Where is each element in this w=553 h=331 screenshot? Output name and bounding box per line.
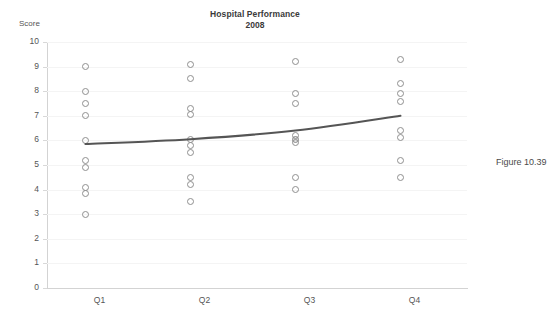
data-point — [82, 190, 89, 197]
y-tick-mark — [43, 288, 47, 289]
data-point — [292, 174, 299, 181]
data-point — [397, 56, 404, 63]
x-tick-label-q4: Q4 — [395, 295, 435, 305]
x-tick-label-q2: Q2 — [185, 295, 225, 305]
data-point — [82, 211, 89, 218]
data-point — [292, 90, 299, 97]
chart-subtitle: 2008 — [160, 20, 350, 31]
y-tick-label: 4 — [17, 185, 39, 194]
y-tick-label: 2 — [17, 234, 39, 243]
data-point — [82, 100, 89, 107]
data-point — [187, 75, 194, 82]
x-tick-label-q1: Q1 — [80, 295, 120, 305]
data-point — [397, 157, 404, 164]
y-tick-label: 10 — [17, 37, 39, 46]
chart-title: Hospital Performance — [160, 9, 350, 20]
data-point — [82, 63, 89, 70]
data-point — [397, 90, 404, 97]
x-tick-label-q3: Q3 — [290, 295, 330, 305]
data-point — [292, 139, 299, 146]
data-point — [187, 174, 194, 181]
y-tick-label: 0 — [17, 283, 39, 292]
y-tick-label: 9 — [17, 62, 39, 71]
y-tick-label: 1 — [17, 258, 39, 267]
y-tick-label: 5 — [17, 160, 39, 169]
data-point — [187, 111, 194, 118]
y-axis-title: Score — [19, 19, 40, 28]
data-point — [187, 61, 194, 68]
plot-area — [47, 42, 467, 288]
data-point — [187, 198, 194, 205]
data-point — [187, 142, 194, 149]
data-point — [187, 149, 194, 156]
figure-container: Hospital Performance 2008 Score 10987654… — [0, 0, 553, 331]
data-point — [187, 181, 194, 188]
data-point — [397, 174, 404, 181]
data-point — [82, 164, 89, 171]
data-point — [292, 100, 299, 107]
data-point — [397, 134, 404, 141]
y-tick-label: 3 — [17, 209, 39, 218]
data-point — [82, 157, 89, 164]
y-tick-label: 6 — [17, 135, 39, 144]
x-axis-line — [47, 288, 468, 289]
y-tick-label: 7 — [17, 111, 39, 120]
data-point — [82, 137, 89, 144]
data-point — [292, 58, 299, 65]
data-point — [397, 80, 404, 87]
y-tick-label: 8 — [17, 86, 39, 95]
data-point — [292, 186, 299, 193]
data-point — [397, 98, 404, 105]
data-point — [82, 112, 89, 119]
data-point — [82, 88, 89, 95]
figure-caption: Figure 10.39 — [496, 157, 547, 167]
data-point — [397, 127, 404, 134]
